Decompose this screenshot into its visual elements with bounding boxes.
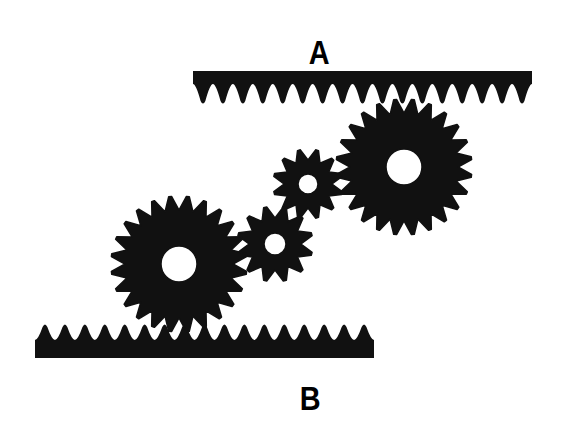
rack-b: [35, 325, 374, 359]
gear-rack-diagram: A B: [0, 0, 561, 439]
gear-large-upper: [336, 99, 471, 234]
label-rack-a: A: [309, 35, 330, 69]
gear-large-lower: [111, 196, 246, 331]
diagram-canvas: [0, 0, 561, 439]
rack-a: [193, 71, 532, 104]
gears-group: [111, 99, 471, 331]
gear-small-lower: [238, 207, 312, 281]
label-rack-b: B: [300, 381, 321, 415]
